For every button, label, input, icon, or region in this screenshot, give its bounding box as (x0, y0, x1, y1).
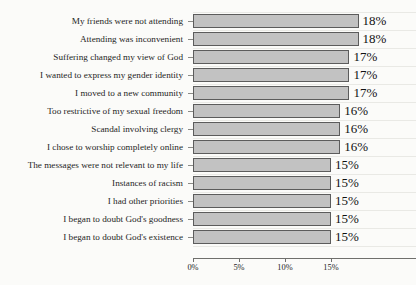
x-axis-tick-label: 10% (277, 263, 292, 272)
bar-value-label: 17% (353, 48, 377, 66)
bar-row: My friends were not attending18% (0, 12, 416, 30)
bar-row: Too restrictive of my sexual freedom16% (0, 102, 416, 120)
x-axis-tick-label: 15% (323, 263, 338, 272)
x-axis-tick (331, 258, 332, 262)
x-axis-tick (239, 258, 240, 262)
bar-value-label: 15% (335, 156, 359, 174)
category-label: My friends were not attending (72, 12, 183, 30)
x-axis-tick-label: 5% (233, 263, 244, 272)
bar (193, 32, 359, 46)
bar-value-label: 16% (344, 138, 368, 156)
bar (193, 212, 331, 226)
bar-row: Scandal involving clergy16% (0, 120, 416, 138)
bar-value-label: 18% (363, 12, 387, 30)
bar-row: Suffering changed my view of God17% (0, 48, 416, 66)
bar-row: The messages were not relevant to my lif… (0, 156, 416, 174)
bar-row: I wanted to express my gender identity17… (0, 66, 416, 84)
bar (193, 158, 331, 172)
bar-row: I began to doubt God's existence15% (0, 228, 416, 246)
bar-value-label: 15% (335, 210, 359, 228)
bar (193, 50, 349, 64)
bar-row: Instances of racism15% (0, 174, 416, 192)
bar-row: Attending was inconvenient18% (0, 30, 416, 48)
bar-row: I began to doubt God's goodness15% (0, 210, 416, 228)
category-label: I began to doubt God's existence (63, 228, 183, 246)
x-axis-tick (285, 258, 286, 262)
bar-value-label: 17% (353, 66, 377, 84)
gridline (193, 246, 416, 247)
bar-row: I chose to worship completely online16% (0, 138, 416, 156)
bar-value-label: 17% (353, 84, 377, 102)
bar (193, 14, 359, 28)
bar-row: I had other priorities15% (0, 192, 416, 210)
category-label: The messages were not relevant to my lif… (28, 156, 183, 174)
category-label: I chose to worship completely online (47, 138, 183, 156)
x-axis-tick (193, 258, 194, 262)
bar-value-label: 15% (335, 192, 359, 210)
bar-value-label: 16% (344, 120, 368, 138)
bar-value-label: 18% (363, 30, 387, 48)
bar (193, 68, 349, 82)
category-label: Scandal involving clergy (91, 120, 183, 138)
category-label: I had other priorities (108, 192, 183, 210)
category-label: Instances of racism (112, 174, 183, 192)
bar (193, 176, 331, 190)
bar (193, 230, 331, 244)
category-label: I moved to a new community (75, 84, 183, 102)
bar (193, 194, 331, 208)
category-label: I began to doubt God's goodness (63, 210, 183, 228)
bar (193, 86, 349, 100)
horizontal-bar-chart: My friends were not attending18%Attendin… (0, 0, 416, 285)
category-label: Suffering changed my view of God (53, 48, 183, 66)
bar-value-label: 15% (335, 174, 359, 192)
bar (193, 122, 340, 136)
category-label: Attending was inconvenient (80, 30, 183, 48)
bar-row: I moved to a new community17% (0, 84, 416, 102)
x-axis-line (193, 258, 416, 259)
bar (193, 104, 340, 118)
bar-value-label: 15% (335, 228, 359, 246)
category-label: I wanted to express my gender identity (40, 66, 183, 84)
x-axis-tick-label: 0% (187, 263, 198, 272)
category-label: Too restrictive of my sexual freedom (47, 102, 183, 120)
bar (193, 140, 340, 154)
bar-value-label: 16% (344, 102, 368, 120)
